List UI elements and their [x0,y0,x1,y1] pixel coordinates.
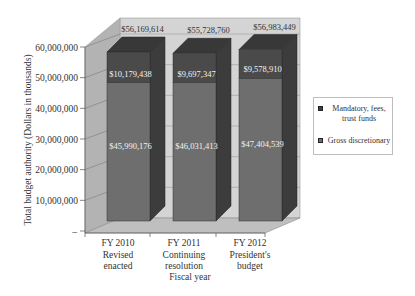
bar-group: $10,179,438$45,990,176$56,169,614 [107,24,165,221]
x-category-label: FY 2012 [233,238,266,248]
bar-gross-discretionary [239,78,282,221]
legend-swatch-gross-discretionary [318,138,323,143]
bar-group: $9,578,910$47,404,539$56,983,449 [239,22,297,221]
total-label: $56,169,614 [121,24,164,34]
x-category-label: budget [237,261,263,271]
value-label-mandatory: $9,578,910 [243,64,281,74]
x-category-label: Revised [103,250,134,260]
y-axis: –10,000,00020,000,00030,000,00040,000,00… [35,43,85,237]
y-tick-label: 30,000,000 [35,135,78,145]
value-label-mandatory: $10,179,438 [109,69,152,79]
value-label-mandatory: $9,697,347 [177,69,215,79]
bar-side [150,37,165,221]
y-tick-label: 40,000,000 [35,104,78,114]
x-category-label: enacted [103,261,132,271]
total-label: $56,983,449 [253,22,296,32]
bar-side [216,38,231,221]
x-axis: FY 2010RevisedenactedFY 2011Continuingre… [85,233,271,271]
y-axis-title: Total budget authority (Dollars in thous… [23,54,34,225]
bar-group: $9,697,347$46,031,413$55,728,760 [173,25,231,221]
legend-swatch-mandatory [318,106,323,111]
x-category-label: President's [230,250,271,260]
x-category-label: Continuing [163,250,206,260]
bar-side [282,35,297,221]
value-label-discretionary: $47,404,539 [241,139,284,149]
bar-gross-discretionary [107,83,150,221]
x-axis-title: Fiscal year [169,272,211,282]
bar-gross-discretionary [173,83,216,221]
legend-label: Mandatory, fees, [318,104,392,114]
y-tick-label: 60,000,000 [35,43,78,53]
value-label-discretionary: $45,990,176 [109,141,152,151]
total-label: $55,728,760 [187,25,230,35]
legend-label: trust funds [318,114,392,124]
y-tick-label: – [71,227,77,237]
bars: $10,179,438$45,990,176$56,169,614$9,697,… [107,22,297,221]
legend-label: Gross discretionary [318,136,392,146]
legend-item-gross-discretionary: Gross discretionary [318,136,392,146]
legend: Mandatory, fees, trust funds Gross discr… [313,97,393,155]
value-label-discretionary: $46,031,413 [175,141,218,151]
x-category-label: FY 2010 [101,238,134,248]
x-category-label: FY 2011 [168,238,201,248]
y-tick-label: 10,000,000 [35,196,78,206]
x-category-label: resolution [165,261,203,271]
y-tick-label: 50,000,000 [35,73,78,83]
legend-item-mandatory: Mandatory, fees, trust funds [318,104,392,124]
y-tick-label: 20,000,000 [35,165,78,175]
